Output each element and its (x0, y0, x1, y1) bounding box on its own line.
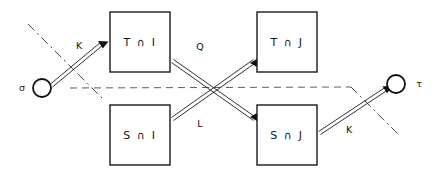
edge-label-q: Q (196, 41, 203, 52)
dashdot-guide-left-lower (78, 74, 104, 100)
terminal-target[interactable]: τ (387, 75, 422, 93)
node-bottom-right-label: S ∩ J (270, 129, 303, 142)
edge-label-bottom-right-to-target: K (346, 124, 353, 135)
terminal-source[interactable]: σ (19, 79, 51, 97)
node-top-right[interactable]: T ∩ J (257, 12, 317, 72)
arrow-bottom-right-to-target (319, 86, 393, 135)
node-top-left-label: T ∩ I (122, 36, 156, 49)
node-bottom-left-label: S ∩ I (123, 129, 156, 142)
terminal-source-label: σ (19, 82, 25, 93)
terminal-target-label: τ (416, 78, 422, 89)
node-top-left[interactable]: T ∩ I (110, 12, 170, 72)
dashed-horizontal-line (70, 87, 351, 88)
edge-label-l: L (197, 118, 203, 129)
dashdot-guide-left (28, 24, 78, 74)
diagram-canvas: T ∩ I T ∩ J S ∩ I S ∩ J σ τ K Q L K (0, 0, 433, 177)
node-top-right-label: T ∩ J (269, 36, 303, 49)
node-bottom-left[interactable]: S ∩ I (110, 105, 170, 165)
node-bottom-right[interactable]: S ∩ J (257, 105, 317, 165)
diagram-svg: T ∩ I T ∩ J S ∩ I S ∩ J σ τ K Q L K (0, 0, 433, 177)
terminal-source-circle[interactable] (33, 79, 51, 97)
terminal-target-circle[interactable] (387, 75, 405, 93)
edge-label-source-to-top-left: K (76, 40, 83, 51)
